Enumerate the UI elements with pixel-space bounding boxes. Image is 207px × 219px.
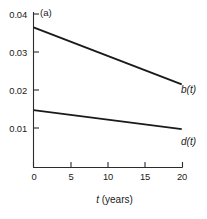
x-tick-label-20: 20 — [171, 171, 193, 182]
series-line-d — [34, 110, 182, 129]
x-tick-label-15: 15 — [134, 171, 156, 182]
x-tick-label-5: 5 — [60, 171, 82, 182]
plot-canvas — [0, 0, 207, 219]
x-tick-label-10: 10 — [97, 171, 119, 182]
y-tick-label-0.01: 0.01 — [1, 123, 27, 134]
series-label-b-arg: (t) — [187, 84, 196, 95]
series-label-d: d(t) — [181, 136, 196, 147]
chart-figure: 0.04 0.03 0.02 0.01 0 5 10 15 20 (a) b(t… — [0, 0, 207, 219]
series-label-d-arg: (t) — [187, 136, 196, 147]
x-axis-title: t (years) — [11, 194, 207, 205]
series-line-b — [34, 27, 182, 84]
x-axis-title-unit: (years) — [102, 194, 133, 205]
x-tick-label-0: 0 — [23, 171, 45, 182]
y-tick-label-0.04: 0.04 — [1, 9, 27, 20]
y-tick-label-0.02: 0.02 — [1, 85, 27, 96]
panel-label: (a) — [40, 7, 52, 18]
y-tick-label-0.03: 0.03 — [1, 47, 27, 58]
series-label-b: b(t) — [181, 84, 196, 95]
